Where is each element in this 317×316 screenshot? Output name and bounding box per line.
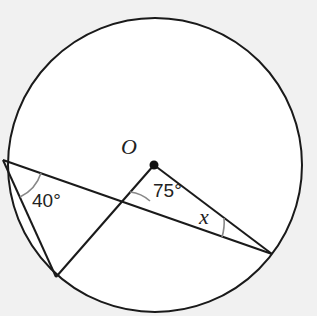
geometry-diagram: O 40° 75° x (0, 0, 317, 316)
angle-label-40: 40° (32, 190, 61, 211)
center-label: O (121, 134, 137, 159)
angle-label-x: x (198, 204, 209, 229)
center-point (150, 161, 159, 170)
angle-label-75: 75° (153, 180, 182, 201)
diagram-canvas: O 40° 75° x (0, 0, 317, 316)
